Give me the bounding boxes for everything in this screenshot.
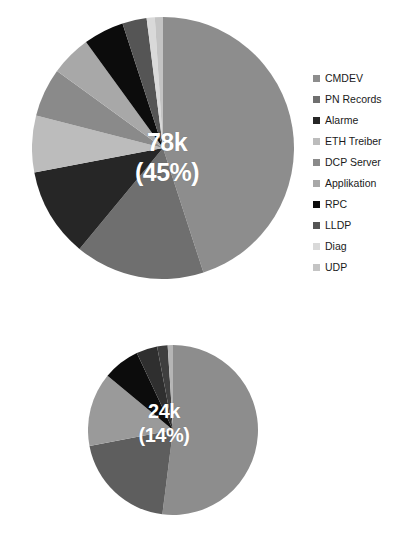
- legend-item-label: RPC: [325, 199, 347, 210]
- legend-item-label: DCP Server: [325, 157, 381, 168]
- legend-item[interactable]: PN Records: [313, 89, 382, 110]
- pie-chart-top: 78k (45%) CMDEVPN RecordsAlarmeETH Treib…: [0, 0, 402, 320]
- legend-item[interactable]: ETH Treiber: [313, 131, 382, 152]
- legend-item[interactable]: RPC: [313, 194, 382, 215]
- legend-item-label: Alarme: [325, 115, 358, 126]
- legend-item[interactable]: LLDP: [313, 215, 382, 236]
- legend-item-label: Applikation: [325, 178, 376, 189]
- legend-top: CMDEVPN RecordsAlarmeETH TreiberDCP Serv…: [313, 68, 382, 278]
- legend-item[interactable]: Applikation: [313, 173, 382, 194]
- legend-swatch-icon: [313, 243, 320, 250]
- legend-swatch-icon: [313, 264, 320, 271]
- pie-bottom-graphic[interactable]: [88, 345, 258, 515]
- legend-item-label: ETH Treiber: [325, 136, 382, 147]
- legend-item-label: CMDEV: [325, 73, 363, 84]
- legend-swatch-icon: [313, 96, 320, 103]
- legend-swatch-icon: [313, 201, 320, 208]
- legend-item-label: Diag: [325, 241, 347, 252]
- legend-item-label: UDP: [325, 262, 347, 273]
- pie-slice[interactable]: [162, 345, 258, 515]
- legend-swatch-icon: [313, 180, 320, 187]
- legend-item[interactable]: UDP: [313, 257, 382, 278]
- pie-chart-bottom: ETH TreiberCMDEVDCP ServerRPCLLDPAlarmeA…: [0, 320, 402, 552]
- legend-swatch-icon: [313, 159, 320, 166]
- legend-swatch-icon: [313, 138, 320, 145]
- pie-bottom-svg: [88, 345, 258, 515]
- legend-item[interactable]: DCP Server: [313, 152, 382, 173]
- legend-item[interactable]: Diag: [313, 236, 382, 257]
- legend-swatch-icon: [313, 117, 320, 124]
- legend-item-label: PN Records: [325, 94, 382, 105]
- legend-item-label: LLDP: [325, 220, 351, 231]
- legend-swatch-icon: [313, 222, 320, 229]
- pie-top-graphic[interactable]: [32, 17, 294, 279]
- legend-item[interactable]: Alarme: [313, 110, 382, 131]
- legend-item[interactable]: CMDEV: [313, 68, 382, 89]
- pie-top-svg: [32, 17, 294, 279]
- legend-swatch-icon: [313, 75, 320, 82]
